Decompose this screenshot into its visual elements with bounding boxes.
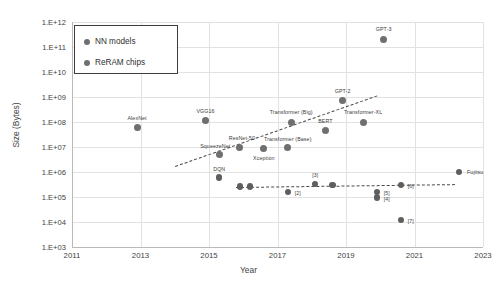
gridline-vertical [415, 22, 416, 247]
x-axis-label: Year [0, 265, 497, 275]
data-point [288, 119, 295, 126]
legend-marker-icon [84, 60, 90, 66]
data-point [285, 189, 291, 195]
data-point [236, 144, 243, 151]
x-axis-tick-label: 2015 [185, 251, 233, 260]
data-point [134, 124, 141, 131]
data-point-label: [7] [408, 218, 414, 224]
y-axis-tick-label: 1.E+05 [18, 193, 66, 202]
y-axis-tick-label: 1.E+12 [18, 18, 66, 27]
legend-item-reram-chips: ReRAM chips [84, 54, 177, 71]
data-point [216, 174, 222, 180]
data-point-label: [4] [384, 196, 390, 202]
legend-marker-icon [84, 39, 90, 45]
x-axis-line [72, 247, 483, 248]
data-point [247, 183, 253, 189]
gridline-vertical [483, 22, 484, 247]
data-point [456, 169, 462, 175]
data-point [398, 182, 404, 188]
data-point [216, 151, 223, 158]
y-axis-tick-label: 1.E+08 [18, 118, 66, 127]
y-axis-tick-label: 1.E+10 [18, 68, 66, 77]
x-axis-tick-label: 2021 [391, 251, 439, 260]
x-axis-tick-label: 2013 [117, 251, 165, 260]
data-point-label: GPT-3 [376, 26, 392, 32]
data-point-label: BERT [318, 118, 332, 124]
data-point [237, 183, 243, 189]
data-point-label: Transformer (Base) [264, 136, 312, 142]
y-axis-tick-label: 1.E+06 [18, 168, 66, 177]
data-point-label: SqueezeNet [200, 143, 230, 149]
scatter-chart: AlexNetVGG16SqueezeNetResNet-50XceptionT… [0, 0, 497, 294]
x-axis-tick-label: 2011 [48, 251, 96, 260]
legend-item-nn-models: NN models [84, 33, 177, 50]
y-axis-line [72, 22, 73, 247]
y-axis-tick-label: 1.E+04 [18, 218, 66, 227]
data-point-label: [6] [408, 183, 414, 189]
x-axis-tick-label: 2023 [459, 251, 497, 260]
y-axis-tick-label: 1.E+11 [18, 43, 66, 52]
y-axis-label: Size (Bytes) [11, 85, 21, 165]
data-point [374, 194, 380, 200]
legend-label: ReRAM chips [95, 58, 145, 67]
gridline-vertical [346, 22, 347, 247]
data-point-label: Transformer (Big) [270, 109, 313, 115]
data-point [260, 145, 267, 152]
data-point-label: AlexNet [127, 115, 146, 121]
data-point-label: Fujitsu [467, 169, 483, 175]
data-point [202, 117, 209, 124]
data-point-label: VGG16 [196, 108, 214, 114]
legend-label: NN models [95, 37, 136, 46]
data-point-label: ResNet-50 [229, 135, 255, 141]
y-axis-tick-label: 1.E+07 [18, 143, 66, 152]
data-point [329, 182, 335, 188]
chart-legend: NN models ReRAM chips [74, 25, 178, 74]
data-point [322, 127, 329, 134]
gridline-vertical [278, 22, 279, 247]
x-axis-tick-label: 2019 [322, 251, 370, 260]
data-point-label: Transformer-XL [344, 109, 382, 115]
gridline-vertical [209, 22, 210, 247]
data-point-label: DQN [213, 166, 225, 172]
data-point [380, 36, 387, 43]
x-axis-tick-label: 2017 [254, 251, 302, 260]
data-point [284, 144, 291, 151]
data-point-label: GPT-2 [335, 88, 351, 94]
data-point [339, 97, 346, 104]
data-point-label: Xception [253, 155, 274, 161]
data-point [360, 119, 367, 126]
data-point-label: [2] [295, 190, 301, 196]
data-point-label: [3] [312, 172, 318, 178]
y-axis-tick-label: 1.E+09 [18, 93, 66, 102]
